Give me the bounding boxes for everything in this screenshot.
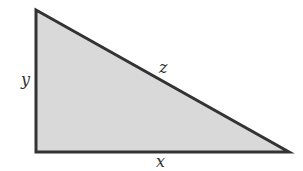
right-triangle (36, 10, 289, 152)
triangle-diagram: y z x (0, 0, 303, 171)
label-y: y (20, 70, 31, 89)
label-z: z (158, 58, 168, 77)
label-x: x (156, 152, 165, 171)
